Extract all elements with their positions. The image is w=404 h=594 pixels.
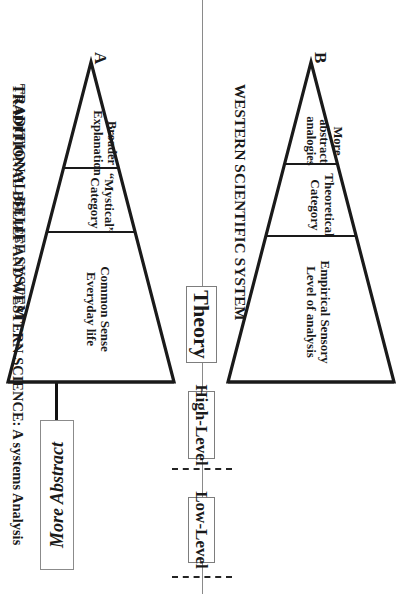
system-caption-western-text: WESTERN SCIENTIFIC SYSTEM: [232, 84, 248, 321]
axis-label-low-level-text: Low-Level: [193, 491, 210, 568]
tier-label-a-2: “Mystical” Category: [88, 158, 116, 248]
axis-label-high-level-text: High-Level: [193, 384, 210, 465]
system-caption-traditional: TRADITIONAL BELIEF SYSTEM: [11, 84, 28, 319]
more-abstract-label-text: More Abstract: [47, 442, 68, 548]
tier-label-b-3-line-2: Level of analysis: [304, 238, 318, 386]
axis-label-high-level: High-Level: [188, 391, 215, 459]
dashed-separator-1: [172, 468, 232, 470]
tier-label-a-3-line-2: Everyday life: [84, 243, 98, 375]
tier-label-b-3-line-1: Empirical Sensory: [318, 238, 332, 386]
system-caption-western: WESTERN SCIENTIFIC SYSTEM: [231, 84, 248, 321]
figure-canvas: Theory High-Level Low-Level More Abstrac…: [0, 0, 404, 594]
tier-label-a-3: Common Sense Everyday life: [84, 243, 112, 375]
axis-label-theory: Theory: [186, 286, 217, 363]
dashed-separator-2: [172, 576, 232, 578]
axis-label-theory-text: Theory: [191, 290, 213, 358]
tier-label-b-3: Empirical Sensory Level of analysis: [304, 238, 332, 386]
axis-label-low-level: Low-Level: [188, 497, 215, 563]
tier-label-a-2-line-1: “Mystical”: [102, 158, 116, 248]
apex-letter-a-text: A: [91, 52, 110, 64]
apex-letter-b-text: B: [311, 52, 330, 63]
apex-letter-b: B: [310, 52, 330, 63]
more-abstract-label-box: More Abstract: [40, 420, 74, 570]
tier-label-a-2-line-2: Category: [88, 158, 102, 248]
tier-label-a-3-line-1: Common Sense: [98, 243, 112, 375]
system-caption-traditional-text: TRADITIONAL BELIEF SYSTEM: [12, 84, 28, 319]
apex-letter-a: A: [90, 52, 110, 64]
